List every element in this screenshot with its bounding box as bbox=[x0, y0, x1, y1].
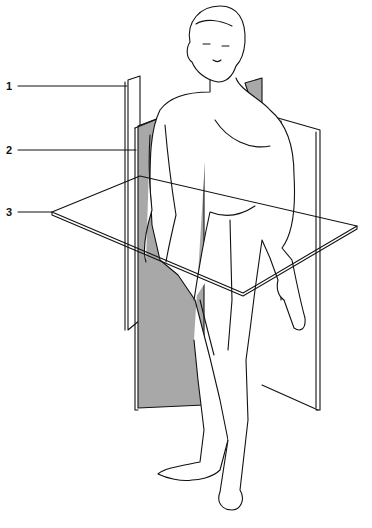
label-3: 3 bbox=[6, 207, 12, 218]
label-1: 1 bbox=[6, 81, 12, 92]
label-2: 2 bbox=[6, 145, 12, 156]
body-planes-diagram bbox=[0, 0, 372, 528]
human-figure bbox=[144, 6, 305, 510]
leader-lines bbox=[18, 86, 136, 212]
